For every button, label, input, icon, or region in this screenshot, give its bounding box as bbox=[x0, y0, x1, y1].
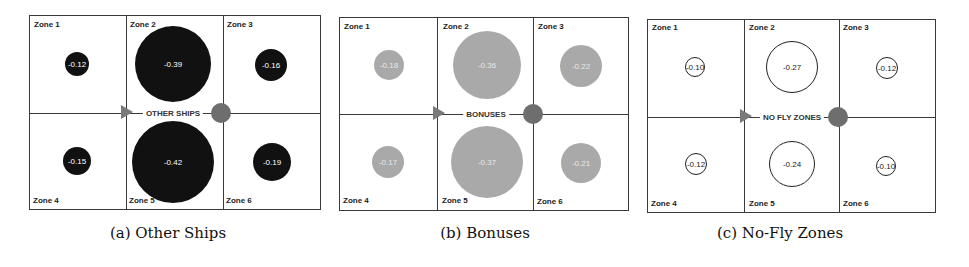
zone-label: Zone 2 bbox=[443, 22, 469, 31]
zone-label: Zone 2 bbox=[130, 20, 156, 29]
zone-label: Zone 4 bbox=[33, 196, 59, 205]
zone-label: Zone 4 bbox=[343, 196, 369, 205]
zone-label: Zone 1 bbox=[34, 20, 60, 29]
bubble-zone-6: -0.10 bbox=[876, 156, 896, 176]
bubble-zone-5: -0.37 bbox=[451, 126, 523, 198]
zone-label: Zone 3 bbox=[538, 22, 564, 31]
end-circle-icon bbox=[211, 103, 231, 123]
zone-label: Zone 2 bbox=[749, 23, 775, 32]
bubble-zone-2: -0.27 bbox=[766, 41, 818, 93]
zone-label: Zone 4 bbox=[651, 199, 677, 208]
zone-label: Zone 5 bbox=[749, 199, 775, 208]
caption: (b) Bonuses bbox=[440, 224, 530, 242]
end-circle-icon bbox=[523, 104, 543, 124]
zone-label: Zone 3 bbox=[227, 20, 253, 29]
zone-label: Zone 5 bbox=[129, 196, 155, 205]
center-label: NO FLY ZONES bbox=[760, 113, 824, 122]
bubble-zone-5: -0.24 bbox=[769, 141, 815, 187]
start-triangle-icon bbox=[740, 109, 752, 123]
bubble-zone-1: -0.10 bbox=[685, 57, 705, 77]
bubble-zone-3: -0.12 bbox=[876, 57, 898, 79]
bubble-zone-1: -0.18 bbox=[374, 50, 404, 80]
bubble-zone-4: -0.15 bbox=[63, 147, 91, 175]
zone-label: Zone 6 bbox=[843, 199, 869, 208]
start-triangle-icon bbox=[121, 105, 133, 119]
zone-label: Zone 1 bbox=[344, 22, 370, 31]
bubble-zone-2: -0.36 bbox=[453, 31, 521, 99]
start-triangle-icon bbox=[433, 106, 445, 120]
bubble-zone-4: -0.17 bbox=[372, 146, 404, 178]
zone-label: Zone 1 bbox=[652, 23, 678, 32]
bubble-zone-6: -0.21 bbox=[561, 143, 601, 183]
zone-label: Zone 6 bbox=[226, 196, 252, 205]
bubble-zone-6: -0.19 bbox=[253, 143, 291, 181]
end-circle-icon bbox=[828, 107, 848, 127]
bubble-zone-2: -0.39 bbox=[135, 26, 211, 102]
center-label: OTHER SHIPS bbox=[143, 109, 203, 118]
bubble-zone-4: -0.12 bbox=[685, 153, 707, 175]
zone-label: Zone 3 bbox=[843, 23, 869, 32]
bubble-zone-5: -0.42 bbox=[132, 121, 214, 203]
zone-label: Zone 6 bbox=[537, 197, 563, 206]
caption: (a) Other Ships bbox=[110, 224, 226, 242]
caption: (c) No-Fly Zones bbox=[717, 224, 843, 242]
bubble-zone-1: -0.12 bbox=[65, 52, 89, 76]
zone-label: Zone 5 bbox=[442, 196, 468, 205]
center-label: BONUSES bbox=[463, 110, 509, 119]
bubble-zone-3: -0.16 bbox=[255, 49, 287, 81]
bubble-zone-3: -0.22 bbox=[560, 45, 602, 87]
